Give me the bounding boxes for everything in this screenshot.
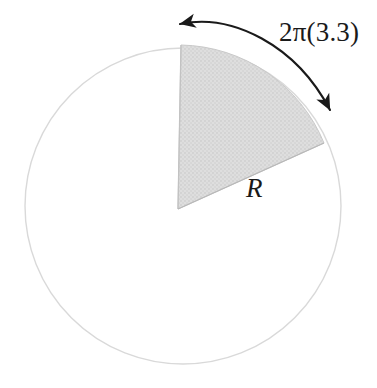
figure-container: 2π(3.3) R (0, 0, 377, 388)
radius-label: R (246, 175, 263, 202)
arc-length-label: 2π(3.3) (279, 19, 359, 46)
circle-sector-diagram (0, 0, 377, 388)
